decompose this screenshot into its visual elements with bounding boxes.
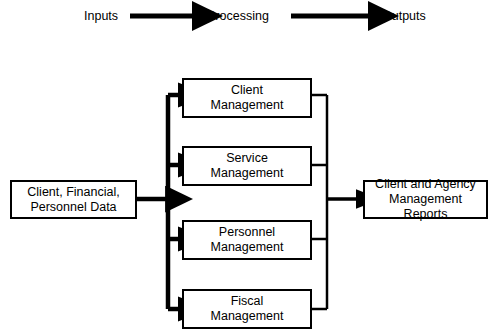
node-output-reports[interactable]: Client and Agency Management Reports <box>363 180 488 219</box>
node-client-management[interactable]: Client Management <box>182 78 312 118</box>
node-service-management[interactable]: Service Management <box>182 146 312 186</box>
node-output-reports-label: Client and Agency Management Reports <box>365 177 486 222</box>
node-client-management-label: Client Management <box>207 83 288 113</box>
node-personnel-management[interactable]: Personnel Management <box>182 220 312 260</box>
diagram-canvas: Inputs Processing Outputs <box>0 0 494 336</box>
node-service-management-label: Service Management <box>207 151 288 181</box>
node-personnel-management-label: Personnel Management <box>207 225 288 255</box>
node-fiscal-management[interactable]: Fiscal Management <box>182 289 312 329</box>
node-input-data[interactable]: Client, Financial, Personnel Data <box>10 180 137 219</box>
node-fiscal-management-label: Fiscal Management <box>207 294 288 324</box>
node-input-data-label: Client, Financial, Personnel Data <box>23 185 123 215</box>
